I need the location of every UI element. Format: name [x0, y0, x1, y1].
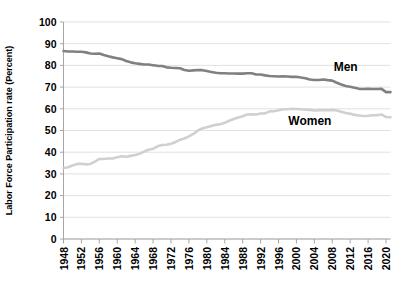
x-tick-labels: 1948195219561960196419681972197619801984…	[58, 247, 393, 271]
y-tick-label-100: 100	[39, 16, 57, 28]
x-tick-label-1980: 1980	[201, 247, 213, 271]
x-tick-label-1956: 1956	[93, 247, 105, 271]
x-tick-label-1972: 1972	[165, 247, 177, 271]
y-tick-label-30: 30	[45, 168, 57, 180]
x-tick-label-1964: 1964	[129, 247, 141, 271]
x-tick-label-2020: 2020	[380, 247, 392, 271]
x-tick-label-2000: 2000	[290, 247, 302, 271]
x-tick-label-1968: 1968	[147, 247, 159, 271]
x-tick-label-1984: 1984	[219, 247, 231, 271]
y-tick-label-90: 90	[45, 38, 57, 50]
series-label-men: Men	[334, 60, 358, 74]
y-tick-label-10: 10	[45, 211, 57, 223]
x-tick-label-2004: 2004	[308, 247, 320, 271]
y-tick-labels: 0102030405060708090100	[39, 16, 57, 245]
y-tick-label-60: 60	[45, 103, 57, 115]
y-tick-label-70: 70	[45, 81, 57, 93]
y-tick-label-80: 80	[45, 59, 57, 71]
x-axis	[64, 239, 391, 244]
y-tick-label-0: 0	[51, 233, 57, 245]
x-tick-label-1952: 1952	[75, 247, 87, 271]
y-tick-label-20: 20	[45, 189, 57, 201]
line-chart: 0102030405060708090100 19481952195619601…	[0, 0, 403, 284]
x-tick-label-1992: 1992	[255, 247, 267, 271]
y-axis	[60, 22, 64, 239]
y-tick-label-50: 50	[45, 124, 57, 136]
x-tick-label-2012: 2012	[344, 247, 356, 271]
x-tick-label-1976: 1976	[183, 247, 195, 271]
y-axis-title: Labor Force Participation rate (Percent)	[4, 46, 14, 216]
chart-container: 0102030405060708090100 19481952195619601…	[0, 0, 403, 284]
x-tick-label-2008: 2008	[326, 247, 338, 271]
series-label-women: Women	[288, 114, 331, 128]
x-tick-label-1996: 1996	[273, 247, 285, 271]
x-tick-label-2016: 2016	[362, 247, 374, 271]
y-tick-label-40: 40	[45, 146, 57, 158]
x-tick-label-1988: 1988	[237, 247, 249, 271]
x-tick-label-1960: 1960	[111, 247, 123, 271]
x-tick-label-1948: 1948	[58, 247, 70, 271]
